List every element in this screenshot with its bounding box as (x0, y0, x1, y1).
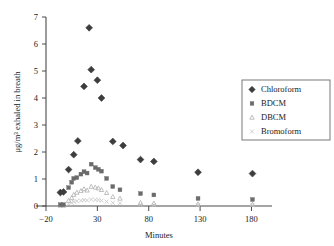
data-point (88, 66, 95, 73)
data-point (100, 169, 104, 173)
legend-label: BDCM (261, 98, 286, 108)
data-point (65, 166, 72, 173)
data-point (75, 190, 79, 194)
legend-label: Chloroform (261, 84, 302, 94)
y-tick-label: 3 (34, 120, 38, 130)
data-point (70, 180, 74, 184)
data-point (105, 200, 109, 204)
data-point (96, 186, 100, 190)
y-tick-label: 5 (34, 66, 38, 76)
data-point (195, 169, 202, 176)
data-point (94, 77, 101, 84)
data-point (120, 142, 127, 149)
data-point (196, 197, 200, 201)
x-tick-label: 130 (194, 214, 207, 224)
legend-label: DBCM (261, 112, 286, 122)
chart-figure: μg/m³ exhaled in breath 01234567 −203080… (0, 0, 334, 246)
data-point (89, 162, 93, 166)
y-axis-title: μg/m³ exhaled in breath (12, 71, 22, 153)
data-point (118, 188, 122, 192)
y-tick-label: 7 (34, 12, 38, 22)
series-chloroform (57, 24, 256, 196)
data-point (70, 151, 77, 158)
series-dbcm (58, 184, 254, 207)
data-point (251, 198, 255, 202)
data-point (85, 171, 89, 175)
data-point (86, 24, 93, 31)
data-point (89, 198, 93, 202)
data-point (139, 192, 143, 196)
x-tick-label: 80 (144, 214, 153, 224)
data-point (118, 196, 122, 200)
data-point (81, 83, 88, 90)
legend-label: Bromoform (261, 126, 302, 136)
data-point (75, 176, 79, 180)
y-tick-label: 6 (34, 39, 38, 49)
data-point (137, 156, 144, 163)
x-axis-title: Minutes (145, 230, 173, 240)
legend-marker-icon (250, 102, 254, 106)
y-tick-label: 1 (34, 174, 38, 184)
data-point (104, 190, 108, 194)
data-point (111, 185, 115, 189)
y-tick-label: 2 (34, 147, 38, 157)
chart-legend: ChloroformBDCMDBCMBromoform (242, 80, 330, 140)
y-axis-ticks: 01234567 (34, 12, 46, 211)
data-point (100, 199, 104, 203)
legend-marker-bdcm (250, 102, 254, 106)
y-tick-label: 0 (34, 201, 38, 211)
data-point (249, 170, 256, 177)
x-axis-ticks: −203080130180 (39, 206, 257, 224)
data-point (138, 200, 142, 204)
scatter-chart: μg/m³ exhaled in breath 01234567 −203080… (0, 0, 334, 246)
data-point (75, 199, 79, 203)
data-point (74, 138, 81, 145)
data-point (62, 203, 66, 207)
x-tick-label: 30 (93, 214, 102, 224)
data-point (67, 186, 71, 190)
data-point (150, 158, 157, 165)
data-point (85, 198, 89, 202)
x-tick-label: 180 (245, 214, 258, 224)
data-points-layer (57, 24, 256, 207)
data-point (152, 193, 156, 197)
y-tick-label: 4 (34, 93, 39, 103)
data-point (111, 195, 115, 199)
data-point (89, 184, 93, 188)
data-point (105, 177, 109, 181)
data-point (118, 201, 122, 205)
data-point (98, 95, 105, 102)
x-tick-label: −20 (39, 214, 52, 224)
data-point (111, 201, 115, 205)
data-point (109, 138, 116, 145)
